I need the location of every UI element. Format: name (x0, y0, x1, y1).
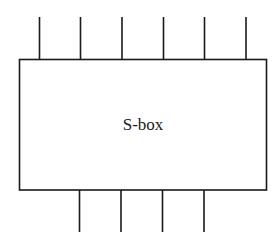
sbox-label: S-box (19, 59, 267, 190)
sbox-diagram: S-box (0, 0, 278, 234)
